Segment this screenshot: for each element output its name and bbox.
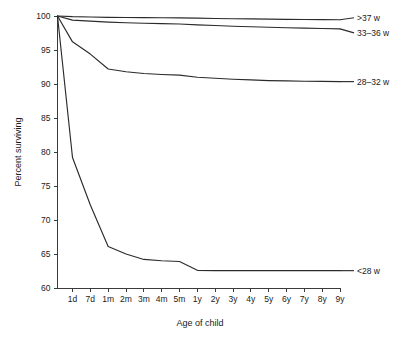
series-label-0: >37 w xyxy=(357,13,381,23)
series-line-3 xyxy=(58,16,341,271)
series-leader-lines xyxy=(340,18,354,271)
x-tick-label: 4m xyxy=(156,294,168,304)
series-label-3: <28 w xyxy=(357,266,381,276)
survival-chart: 6065707580859095100 1d7d1m2m3m4m5m1y2y3y… xyxy=(0,0,401,337)
y-tick-label: 75 xyxy=(41,181,51,191)
x-tick-label: 2m xyxy=(120,294,132,304)
x-tick-labels: 1d7d1m2m3m4m5m1y2y3y4y5y6y7y8y9y xyxy=(68,294,345,304)
x-tick-label: 1y xyxy=(193,294,203,304)
x-tick-label: 6y xyxy=(282,294,292,304)
x-axis-title: Age of child xyxy=(176,318,223,328)
y-tick-label: 90 xyxy=(41,79,51,89)
x-tick-label: 3m xyxy=(138,294,150,304)
x-tick-label: 4y xyxy=(246,294,256,304)
x-tick-label: 7d xyxy=(86,294,96,304)
series-labels: >37 w33–36 w28–32 w<28 w xyxy=(357,13,390,276)
y-tick-label: 60 xyxy=(41,283,51,293)
series-label-1: 33–36 w xyxy=(357,28,390,38)
x-tick-label: 8y xyxy=(318,294,328,304)
x-tick-label: 5m xyxy=(174,294,186,304)
y-tick-label: 95 xyxy=(41,45,51,55)
y-tick-label: 70 xyxy=(41,215,51,225)
y-tick-labels: 6065707580859095100 xyxy=(36,11,50,293)
x-tick-label: 5y xyxy=(264,294,274,304)
axes-group xyxy=(58,16,341,289)
y-tick-label: 100 xyxy=(36,11,50,21)
series-line-2 xyxy=(58,16,341,82)
y-tick-label: 80 xyxy=(41,147,51,157)
x-tick-label: 7y xyxy=(300,294,310,304)
series-leader-1 xyxy=(340,29,354,33)
series-line-0 xyxy=(58,16,341,20)
x-tick-label: 2y xyxy=(211,294,221,304)
x-tick-label: 3y xyxy=(229,294,239,304)
series-leader-0 xyxy=(340,18,354,20)
x-tick-label: 1m xyxy=(102,294,114,304)
y-tick-label: 65 xyxy=(41,249,51,259)
chart-canvas: 6065707580859095100 1d7d1m2m3m4m5m1y2y3y… xyxy=(0,0,401,337)
series-lines xyxy=(58,16,341,271)
y-axis-title: Percent surviving xyxy=(13,117,23,186)
x-tick-label: 1d xyxy=(68,294,78,304)
y-tick-marks xyxy=(54,16,58,288)
x-tick-label: 9y xyxy=(336,294,346,304)
series-label-2: 28–32 w xyxy=(357,77,390,87)
y-tick-label: 85 xyxy=(41,113,51,123)
